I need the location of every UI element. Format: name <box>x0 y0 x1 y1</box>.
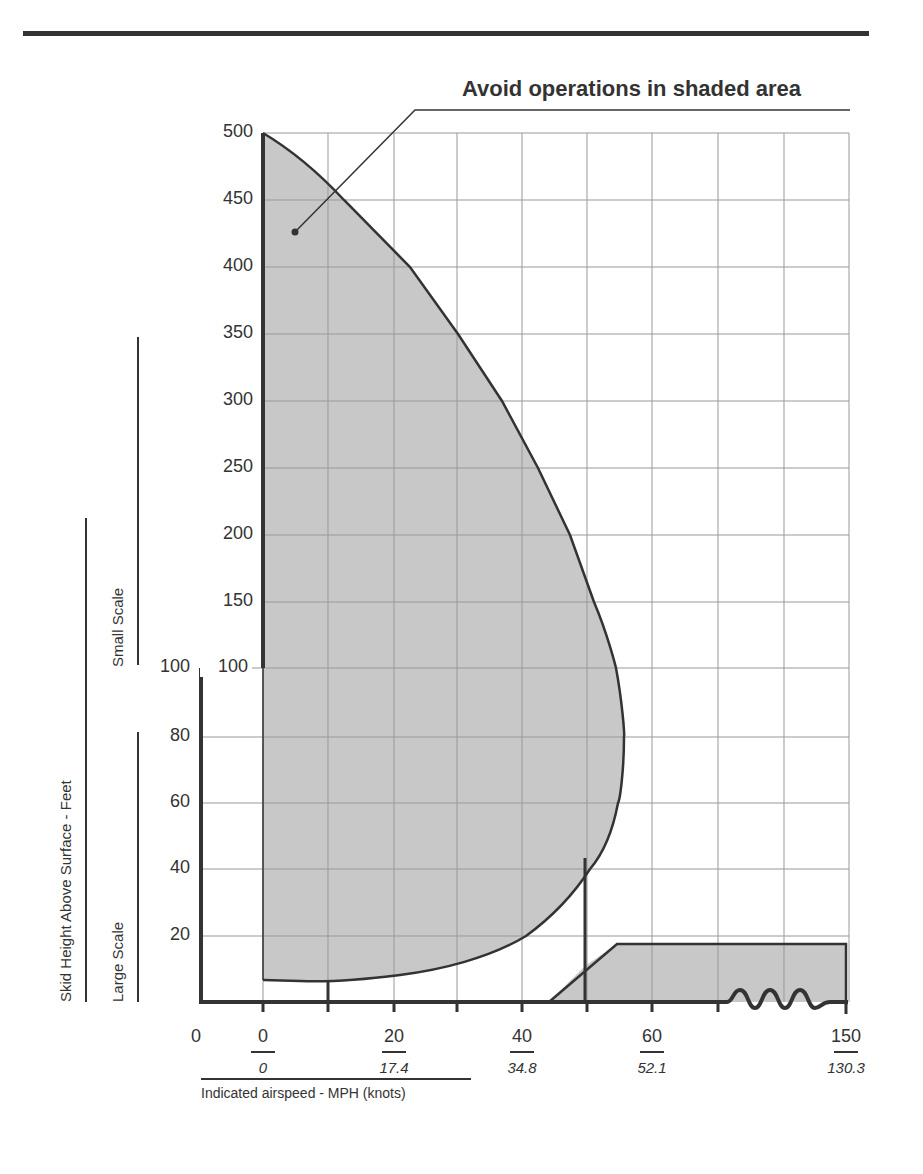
y-tick-100-small: 100 <box>200 656 252 677</box>
x-tick-underline <box>834 1051 858 1053</box>
y-axis-title: Skid Height Above Surface - Feet <box>57 780 74 1002</box>
y-tick-60: 60 <box>130 791 190 812</box>
x-title-rule <box>201 1078 471 1080</box>
x-tick-20-knots: 17.4 <box>359 1059 429 1076</box>
y-tick-350: 350 <box>193 322 253 343</box>
x-tick-underline <box>640 1051 664 1053</box>
y-tick-80: 80 <box>130 725 190 746</box>
large-scale-bracket <box>137 732 139 1002</box>
x-tick-40-knots: 34.8 <box>487 1059 557 1076</box>
y-tick-100-large: 100 <box>130 656 190 677</box>
x-tick-underline <box>510 1051 534 1053</box>
annotation-leader <box>295 110 850 232</box>
avoid-envelope-region <box>263 133 624 981</box>
y-tick-150: 150 <box>193 590 253 611</box>
x-tick-150-mph: 150 <box>816 1026 876 1047</box>
y-tick-200: 200 <box>193 523 253 544</box>
y-tick-20: 20 <box>130 924 190 945</box>
x-axis-title: Indicated airspeed - MPH (knots) <box>201 1085 406 1101</box>
x-tick-20-mph: 20 <box>364 1026 424 1047</box>
x-tick-underline <box>251 1051 275 1053</box>
x-tick-underline <box>382 1051 406 1053</box>
y-tick-300: 300 <box>193 389 253 410</box>
x-tick-60-knots: 52.1 <box>617 1059 687 1076</box>
x-origin-label: 0 <box>166 1026 226 1047</box>
x-tick-40-mph: 40 <box>492 1026 552 1047</box>
x-tick-150-knots: 130.3 <box>811 1059 881 1076</box>
y-tick-500: 500 <box>193 121 253 142</box>
x-tick-0-mph: 0 <box>233 1026 293 1047</box>
small-scale-bracket <box>137 337 139 665</box>
annotation-dot <box>292 229 299 236</box>
small-scale-label: Small Scale <box>109 588 126 667</box>
high-speed-avoid-region <box>549 944 846 1002</box>
large-scale-label: Large Scale <box>109 922 126 1002</box>
y-title-bracket <box>85 518 87 1002</box>
y-tick-250: 250 <box>193 456 253 477</box>
y-tick-40: 40 <box>130 857 190 878</box>
x-tick-0-knots: 0 <box>228 1059 298 1076</box>
y-tick-400: 400 <box>193 255 253 276</box>
x-tick-60-mph: 60 <box>622 1026 682 1047</box>
y-tick-450: 450 <box>193 188 253 209</box>
